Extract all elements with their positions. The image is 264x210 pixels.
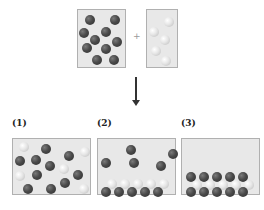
- dark-sphere: [41, 144, 51, 154]
- dark-sphere: [199, 187, 209, 197]
- dark-sphere: [168, 149, 178, 159]
- dark-sphere: [23, 184, 33, 194]
- dark-sphere: [129, 158, 139, 168]
- dark-sphere: [156, 161, 166, 171]
- option-label-2: (2): [97, 118, 112, 128]
- reaction-arrow-line: [135, 77, 137, 101]
- dark-sphere: [126, 145, 136, 155]
- light-sphere: [160, 35, 170, 45]
- dark-sphere: [101, 187, 111, 197]
- option-box-3[interactable]: [181, 138, 260, 195]
- plus-sign: +: [133, 31, 141, 41]
- option-box-2[interactable]: [97, 138, 176, 195]
- dark-sphere: [90, 35, 100, 45]
- dark-sphere: [31, 155, 41, 165]
- dark-sphere: [153, 187, 163, 197]
- dark-sphere: [45, 161, 55, 171]
- dark-sphere: [140, 187, 150, 197]
- option-label-1: (1): [12, 118, 27, 128]
- dark-sphere: [186, 187, 196, 197]
- dark-sphere: [225, 187, 235, 197]
- dark-sphere: [101, 158, 111, 168]
- light-sphere: [19, 142, 29, 152]
- light-sphere: [15, 171, 25, 181]
- dark-sphere: [101, 27, 111, 37]
- light-sphere: [164, 17, 174, 27]
- dark-sphere: [85, 15, 95, 25]
- dark-sphere: [73, 170, 83, 180]
- light-sphere: [151, 46, 161, 56]
- dark-sphere: [112, 37, 122, 47]
- dark-sphere: [64, 151, 74, 161]
- dark-sphere: [60, 178, 70, 188]
- option-label-3: (3): [181, 118, 196, 128]
- light-sphere: [80, 147, 90, 157]
- dark-sphere: [114, 187, 124, 197]
- dark-sphere: [92, 55, 102, 65]
- dark-sphere: [238, 187, 248, 197]
- dark-sphere: [109, 55, 119, 65]
- dark-sphere: [212, 187, 222, 197]
- light-sphere: [149, 27, 159, 37]
- dark-sphere: [15, 156, 25, 166]
- arrow-down-icon: [132, 100, 140, 106]
- option-box-1[interactable]: [12, 138, 91, 195]
- dark-sphere: [127, 187, 137, 197]
- light-sphere: [59, 164, 69, 174]
- dark-sphere: [32, 170, 42, 180]
- light-sphere: [161, 56, 171, 66]
- light-sphere: [79, 184, 89, 194]
- dark-sphere: [79, 28, 89, 38]
- dark-sphere: [101, 44, 111, 54]
- dark-sphere: [46, 184, 56, 194]
- dark-sphere: [82, 43, 92, 53]
- dark-sphere: [110, 15, 120, 25]
